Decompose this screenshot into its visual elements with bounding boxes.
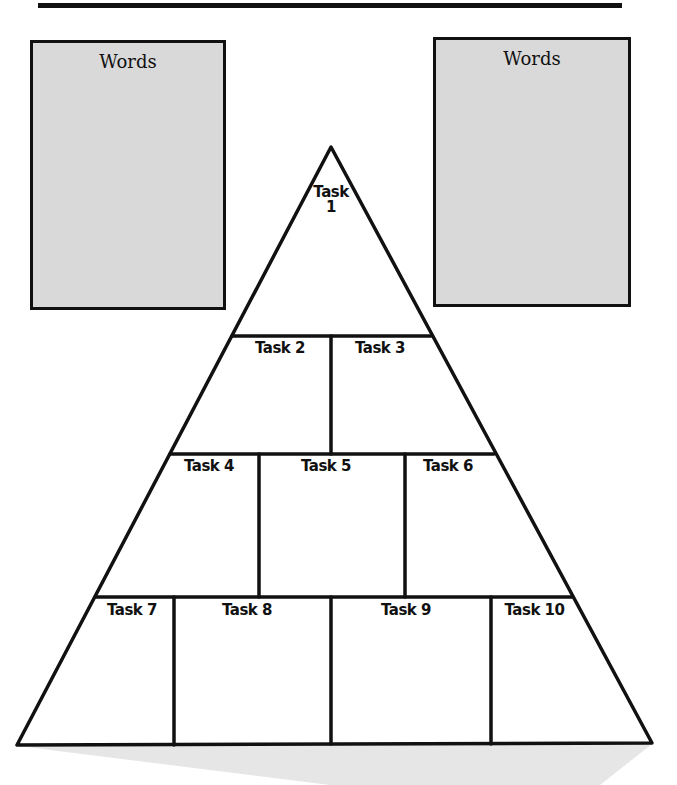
task-9-label[interactable]: Task 9 — [371, 603, 441, 618]
task-1-number: 1 — [306, 200, 356, 215]
task-1-cell[interactable]: Task 1 — [306, 185, 356, 215]
task-7-label[interactable]: Task 7 — [97, 603, 167, 618]
task-3-label[interactable]: Task 3 — [345, 341, 415, 356]
task-6-label[interactable]: Task 6 — [413, 459, 483, 474]
task-10-label[interactable]: Task 10 — [497, 603, 572, 618]
task-pyramid — [0, 0, 677, 785]
task-2-label[interactable]: Task 2 — [245, 341, 315, 356]
pyramid-outline — [17, 147, 652, 745]
pyramid-shadow — [18, 744, 652, 785]
task-5-label[interactable]: Task 5 — [291, 459, 361, 474]
task-4-label[interactable]: Task 4 — [174, 459, 244, 474]
task-8-label[interactable]: Task 8 — [212, 603, 282, 618]
